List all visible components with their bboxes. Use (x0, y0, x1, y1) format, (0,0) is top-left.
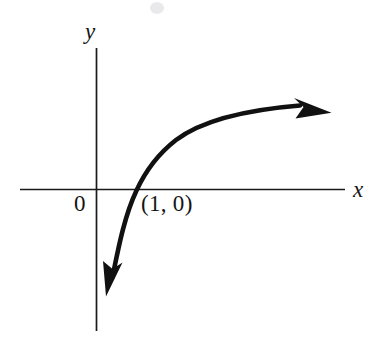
scan-smudge-artifact (150, 2, 164, 14)
x-intercept-label: (1, 0) (141, 192, 193, 215)
y-axis-label: y (85, 20, 95, 43)
origin-label: 0 (74, 192, 86, 215)
curve-arrowhead-upper-right (294, 98, 332, 119)
graph-canvas (0, 0, 379, 342)
x-axis-label: x (353, 178, 363, 201)
math-figure: y x 0 (1, 0) (0, 0, 379, 342)
